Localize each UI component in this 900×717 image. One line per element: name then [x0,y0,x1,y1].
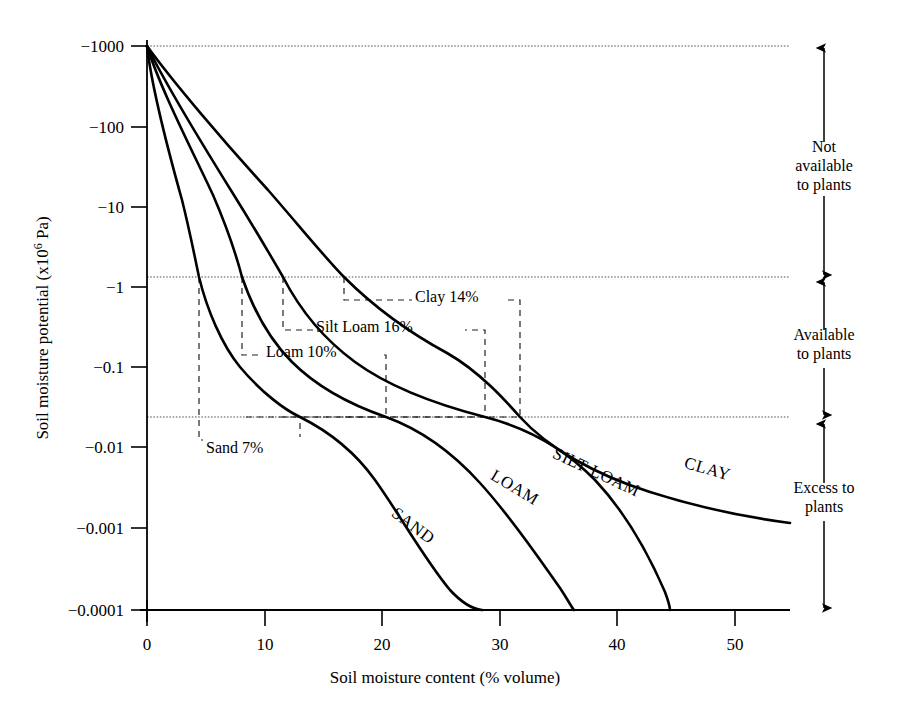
y-tick-label-5: −0.01 [85,438,124,457]
y-axis-title: Soil moisture potential (x106 Pa) [31,216,52,439]
y-axis-title-tail: Pa) [33,216,52,243]
x-tick-label-0: 0 [143,635,152,654]
silt-loam-box-label: Silt Loam 16% [316,318,413,335]
clay-box-label: Clay 14% [415,288,479,306]
bracket-label-not-available-line2: available [795,157,853,174]
sand-box-label: Sand 7% [206,439,263,456]
x-tick-label-1: 10 [257,635,274,654]
x-tick-label-5: 50 [727,635,744,654]
y-tick-label-4: −0.1 [93,358,124,377]
y-tick-label-1: −100 [89,118,124,137]
bracket-label-not-available-line3: to plants [797,176,852,194]
y-tick-label-0: −1000 [80,37,124,56]
y-tick-label-6: −0.001 [76,519,124,538]
x-axis-title: Soil moisture content (% volume) [330,668,560,687]
y-tick-label-7: −0.0001 [68,601,124,620]
y-axis-title-main: Soil moisture potential (x10 [33,249,52,439]
x-tick-label-2: 20 [374,635,391,654]
y-tick-label-3: −1 [106,278,124,297]
bracket-label-available-line2: to plants [797,345,852,363]
bracket-label-excess-line1: Excess to [794,479,855,496]
bracket-label-available-line1: Available [793,326,854,343]
x-tick-label-3: 30 [492,635,509,654]
x-tick-label-4: 40 [609,635,626,654]
bracket-label-excess-line2: plants [805,498,843,516]
soil-moisture-retention-chart: −1000 −100 −10 −1 −0.1 −0.01 −0.001 −0.0… [0,0,900,717]
chart-figure: −1000 −100 −10 −1 −0.1 −0.01 −0.001 −0.0… [0,0,900,717]
y-tick-label-2: −10 [97,198,124,217]
bracket-label-not-available-line1: Not [812,138,837,155]
svg-text:Soil moisture potential (x106: Soil moisture potential (x106 Pa) [31,216,52,439]
